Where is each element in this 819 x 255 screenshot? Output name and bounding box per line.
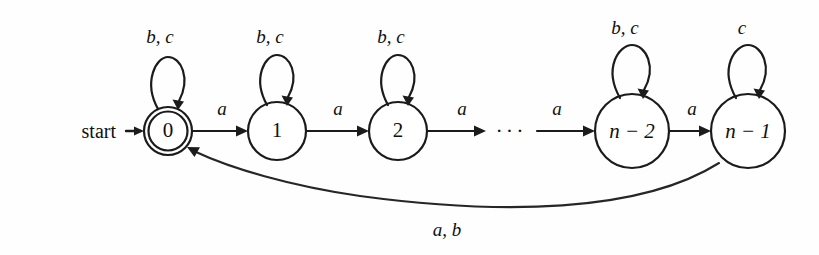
- automaton-diagram: start 0 1 2 n − 2 n − 1: [0, 0, 819, 255]
- self-loop-state-1[interactable]: b, c: [256, 26, 293, 106]
- state-node-0[interactable]: 0: [144, 107, 192, 155]
- transition-ellipsis-to-n-minus-2-arrow-head: [583, 126, 595, 137]
- return-transition-label: a, b: [433, 219, 462, 240]
- transition-ellipsis-to-n-minus-2[interactable]: a: [537, 98, 595, 136]
- state-node-1[interactable]: 1: [248, 102, 306, 160]
- transition-1-to-2-arrow-head: [357, 126, 369, 137]
- start-arrow-group: start: [82, 120, 144, 142]
- transition-2-to-ellipsis-label: a: [457, 98, 467, 119]
- transition-n-minus-2-to-n-minus-1-arrow-head: [699, 126, 711, 137]
- state-1-label: 1: [272, 118, 283, 142]
- start-arrow-head: [134, 127, 144, 136]
- transition-n-minus-2-to-n-minus-1-label: a: [687, 98, 697, 119]
- transition-2-to-ellipsis-arrow-head: [474, 126, 486, 137]
- state-2-label: 2: [393, 118, 404, 142]
- automaton-canvas: start 0 1 2 n − 2 n − 1: [0, 0, 819, 255]
- self-loop-state-0[interactable]: b, c: [146, 26, 184, 110]
- transition-ellipsis-to-n-minus-2-label: a: [552, 98, 562, 119]
- transition-0-to-1-label: a: [217, 98, 227, 119]
- self-loop-state-2-label: b, c: [377, 26, 405, 47]
- state-node-n-minus-1[interactable]: n − 1: [711, 94, 785, 168]
- self-loop-state-n-minus-1[interactable]: c: [729, 17, 766, 99]
- self-loop-state-2[interactable]: b, c: [377, 26, 414, 106]
- self-loop-state-n-minus-1-label: c: [738, 17, 747, 38]
- transition-n-minus-2-to-n-minus-1[interactable]: a: [669, 98, 711, 136]
- transition-1-to-2-label: a: [333, 98, 343, 119]
- state-node-n-minus-2[interactable]: n − 2: [595, 94, 669, 168]
- self-loop-state-0-label: b, c: [146, 26, 174, 47]
- start-label: start: [82, 120, 117, 142]
- transition-0-to-1-arrow-head: [236, 126, 248, 137]
- transition-0-to-1[interactable]: a: [192, 98, 248, 136]
- state-node-2[interactable]: 2: [369, 102, 427, 160]
- state-0-label: 0: [163, 118, 174, 142]
- self-loop-state-n-minus-2[interactable]: b, c: [611, 17, 650, 99]
- state-n-minus-1-label: n − 1: [725, 119, 771, 143]
- transition-2-to-ellipsis[interactable]: a: [427, 98, 486, 136]
- state-n-minus-2-label: n − 2: [609, 119, 655, 143]
- self-loop-state-n-minus-2-label: b, c: [611, 17, 639, 38]
- transition-1-to-2[interactable]: a: [306, 98, 369, 136]
- self-loop-state-1-label: b, c: [256, 26, 284, 47]
- ellipsis-marker: ···: [496, 118, 527, 143]
